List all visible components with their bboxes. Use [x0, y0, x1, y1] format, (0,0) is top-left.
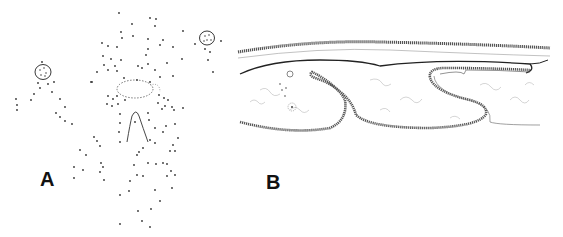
panel-label-b: B — [266, 171, 280, 194]
panel-b-section-drawing: B — [230, 30, 563, 210]
stipple-illustration — [0, 0, 230, 237]
panel-label-a: A — [40, 168, 54, 191]
panel-a-stipple-drawing: A — [0, 0, 230, 237]
